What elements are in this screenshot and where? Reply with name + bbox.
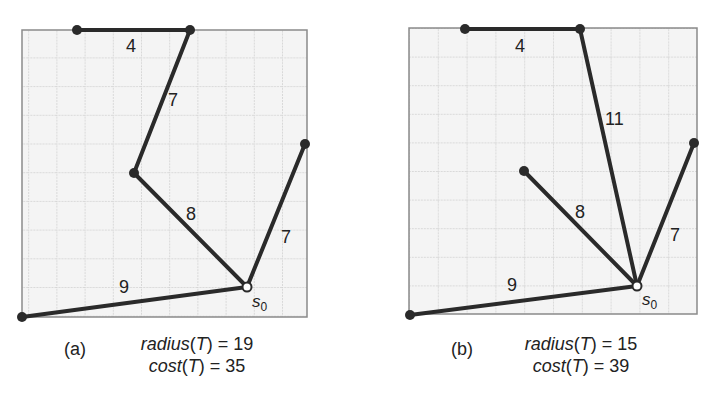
grid-lines	[22, 30, 307, 317]
edge-label: 7	[670, 226, 680, 244]
edge-label: 11	[605, 110, 624, 128]
cost-line: cost(T) = 35	[122, 355, 272, 377]
panel-a-graph	[17, 25, 310, 322]
edge-label: 8	[186, 205, 196, 223]
root-node	[633, 282, 642, 291]
edge-label: 7	[281, 228, 291, 246]
grid-lines	[409, 28, 697, 314]
root-label: s0	[642, 290, 657, 312]
caption-b: radius(T) = 15 cost(T) = 39	[506, 333, 656, 377]
edge-label: 9	[507, 276, 517, 294]
root-label: s0	[252, 292, 267, 314]
edge-label: 8	[575, 203, 585, 221]
panel-b-graph	[405, 24, 699, 320]
root-node	[243, 283, 252, 292]
caption-a: radius(T) = 19 cost(T) = 35	[122, 333, 272, 377]
panel-label-a: (a)	[64, 339, 86, 360]
panel-label-b: (b)	[451, 339, 473, 360]
edge-label: 9	[119, 278, 129, 296]
cost-line: cost(T) = 39	[506, 355, 656, 377]
radius-line: radius(T) = 19	[122, 333, 272, 355]
edge-label: 7	[168, 91, 178, 109]
edge-label: 4	[515, 37, 525, 55]
radius-line: radius(T) = 15	[506, 333, 656, 355]
edge-label: 4	[126, 37, 136, 55]
